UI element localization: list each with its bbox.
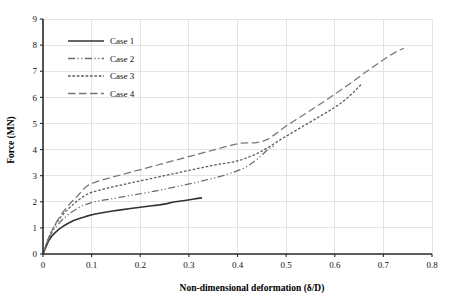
series-line-case-4 xyxy=(43,48,404,254)
x-tick-label: 0.3 xyxy=(183,260,195,270)
series-group xyxy=(43,48,404,254)
gridlines xyxy=(43,19,432,254)
x-tick-label: 0.4 xyxy=(232,260,244,270)
x-tick-label: 0.8 xyxy=(426,260,438,270)
y-tick-label: 7 xyxy=(33,66,38,76)
series-line-case-3 xyxy=(43,84,361,254)
series-line-case-2 xyxy=(43,146,275,254)
x-tick-label: 0.5 xyxy=(281,260,293,270)
x-tick-label: 0.1 xyxy=(86,260,97,270)
legend-label-case-4: Case 4 xyxy=(110,89,135,99)
ticks-group: 012345678900.10.20.30.40.50.60.70.8 xyxy=(33,14,439,270)
y-tick-label: 8 xyxy=(33,40,38,50)
y-tick-label: 1 xyxy=(33,223,38,233)
x-tick-label: 0.2 xyxy=(135,260,146,270)
legend-label-case-1: Case 1 xyxy=(110,36,134,46)
y-tick-label: 0 xyxy=(33,249,38,259)
y-tick-label: 9 xyxy=(33,14,38,24)
y-tick-label: 3 xyxy=(33,171,38,181)
y-axis-title: Force (MN) xyxy=(6,116,17,164)
x-tick-label: 0.6 xyxy=(329,260,341,270)
y-tick-label: 5 xyxy=(33,119,38,129)
y-tick-label: 6 xyxy=(33,93,38,103)
x-axis-title: Non-dimensional deformation (δ/D) xyxy=(180,283,325,294)
chart-legend: Case 1Case 2Case 3Case 4 xyxy=(68,36,135,99)
x-tick-label: 0 xyxy=(41,260,46,270)
legend-label-case-2: Case 2 xyxy=(110,54,134,64)
force-deformation-line-chart: 012345678900.10.20.30.40.50.60.70.8 Case… xyxy=(0,0,466,301)
chart-figure: 012345678900.10.20.30.40.50.60.70.8 Case… xyxy=(0,0,466,301)
legend-label-case-3: Case 3 xyxy=(110,71,135,81)
y-tick-label: 2 xyxy=(33,197,38,207)
series-line-case-1 xyxy=(43,198,202,254)
x-tick-label: 0.7 xyxy=(378,260,390,270)
y-tick-label: 4 xyxy=(33,145,38,155)
